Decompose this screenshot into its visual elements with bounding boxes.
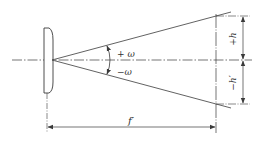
plus-h-label: +h [228,32,238,45]
plus-omega-arc [107,46,110,60]
minus-h-prime-label: −h′ [228,75,238,90]
minus-omega-arc [107,60,110,74]
optical-diagram: + ω −ω +h −h′ f′ [0,0,260,143]
lens [44,28,53,93]
lower-ray [52,60,231,108]
focal-length-label: f′ [127,115,135,126]
upper-ray [52,12,231,60]
minus-omega-label: −ω [117,67,133,77]
plus-omega-label: + ω [117,49,135,59]
